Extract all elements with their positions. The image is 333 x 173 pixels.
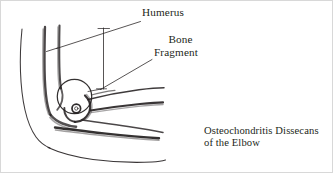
figure-caption: Osteochondritis Dissecans of the Elbow bbox=[204, 125, 319, 149]
ulna-inferior-cortex-shadow bbox=[56, 130, 160, 140]
humerus-leader-tick bbox=[47, 48, 58, 52]
label-humerus-text: Humerus bbox=[142, 6, 184, 18]
figure-caption-line1: Osteochondritis Dissecans bbox=[204, 125, 319, 137]
bone-fragment-circle bbox=[72, 104, 81, 113]
figure-caption-line2: of the Elbow bbox=[204, 137, 319, 149]
label-humerus: Humerus bbox=[142, 6, 184, 19]
skin-outline-forearm bbox=[48, 148, 166, 163]
bone-fragment-defect-inner bbox=[75, 107, 78, 110]
label-bone-fragment-line2: Fragment bbox=[154, 46, 198, 59]
label-bone-fragment: Bone Fragment bbox=[163, 33, 198, 58]
label-bone-fragment-line1: Bone bbox=[168, 33, 192, 45]
ulna-superior-cortex bbox=[82, 120, 163, 132]
humerus-leader-line bbox=[57, 22, 141, 49]
humerus-shaft-anterior-cortex bbox=[59, 26, 61, 89]
figure-osteochondritis-elbow: Humerus Bone Fragment Osteochondritis Di… bbox=[0, 0, 333, 173]
radius-inferior-cortex bbox=[91, 102, 164, 110]
bone-fragment-leader-line bbox=[101, 60, 153, 90]
